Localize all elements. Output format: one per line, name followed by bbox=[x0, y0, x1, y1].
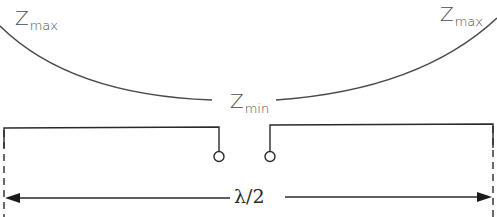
impedance-curve-right bbox=[276, 18, 497, 100]
z-min-subscript: min bbox=[245, 101, 270, 116]
impedance-curve-left bbox=[0, 26, 212, 100]
z-max-left-symbol: Z bbox=[15, 6, 29, 30]
z-min-symbol: Z bbox=[230, 89, 244, 113]
feed-terminal-left bbox=[214, 152, 224, 162]
z-min-center-label: Zmin bbox=[230, 91, 269, 111]
feed-terminal-right bbox=[265, 152, 275, 162]
arrowhead-right-icon bbox=[477, 192, 492, 202]
z-max-right-symbol: Z bbox=[440, 2, 454, 26]
dipole-right-element bbox=[270, 124, 493, 151]
z-max-left-subscript: max bbox=[30, 18, 58, 33]
z-max-right-label: Zmax bbox=[440, 4, 483, 24]
half-wavelength-label: λ/2 bbox=[231, 187, 268, 206]
z-max-right-subscript: max bbox=[455, 14, 483, 29]
arrowhead-left-icon bbox=[5, 193, 20, 203]
dipole-left-element bbox=[4, 127, 219, 151]
z-max-left-label: Zmax bbox=[15, 8, 58, 28]
